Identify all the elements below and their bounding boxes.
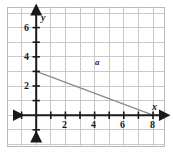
- x-tick-label-8: 8: [150, 120, 155, 130]
- x-tick-label-2: 2: [62, 120, 67, 130]
- x-axis-label: x: [152, 102, 157, 112]
- x-tick-label-6: 6: [120, 120, 125, 130]
- y-tick-label-4: 4: [24, 52, 29, 62]
- y-tick-label-6: 6: [24, 23, 29, 33]
- coordinate-graph-figure: 6 4 2 2 4 6 8 y x a: [0, 0, 173, 156]
- y-tick-label-2: 2: [24, 81, 29, 91]
- y-axis-label: y: [41, 13, 45, 23]
- segment-label-a: a: [95, 58, 100, 67]
- plot-frame: [7, 7, 165, 147]
- x-tick-label-4: 4: [91, 120, 96, 130]
